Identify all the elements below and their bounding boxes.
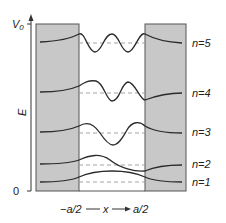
v0-label: V0 bbox=[12, 18, 24, 32]
zero-label: 0 bbox=[13, 185, 19, 197]
energy-axis-label: E bbox=[16, 108, 28, 116]
level-label-n1: n=1 bbox=[192, 176, 211, 188]
square-well-diagram: V0 0 E n=5 n=4 n=3 n=2 n=1 −a/2 x a/2 bbox=[0, 0, 226, 223]
x-right-label: a/2 bbox=[133, 203, 148, 215]
x-variable-label: x bbox=[102, 203, 109, 215]
level-label-n2: n=2 bbox=[192, 158, 211, 170]
level-label-n4: n=4 bbox=[192, 87, 211, 99]
left-barrier bbox=[36, 24, 79, 191]
level-label-n5: n=5 bbox=[192, 37, 212, 49]
x-left-label: −a/2 bbox=[60, 203, 82, 215]
level-label-n3: n=3 bbox=[192, 126, 212, 138]
x-axis-arrow-icon bbox=[125, 207, 131, 212]
energy-axis-arrow-icon bbox=[29, 14, 34, 21]
